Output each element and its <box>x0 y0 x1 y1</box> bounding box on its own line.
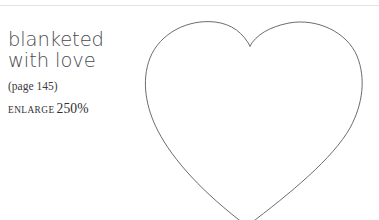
top-divider-rule <box>0 5 379 6</box>
enlarge-label: ENLARGE <box>8 105 55 115</box>
heart-outline-path <box>145 22 362 220</box>
enlarge-instruction: ENLARGE250% <box>8 99 138 117</box>
enlarge-percentage: 250% <box>57 101 89 116</box>
page-canvas: blanketed with love (page 145) ENLARGE25… <box>0 0 379 220</box>
project-title-line-2: with love <box>8 50 138 71</box>
project-title-line-1: blanketed <box>8 29 138 50</box>
caption-block: blanketed with love (page 145) ENLARGE25… <box>8 29 138 117</box>
page-reference: (page 145) <box>8 80 138 93</box>
